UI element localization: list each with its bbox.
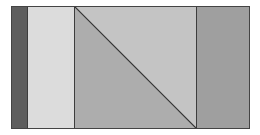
light-panel xyxy=(27,7,74,128)
diagram-frame xyxy=(11,6,250,129)
diagonal-split xyxy=(75,7,196,128)
split-panel xyxy=(74,7,196,128)
right-panel xyxy=(196,7,249,128)
dark-strip xyxy=(12,7,27,128)
